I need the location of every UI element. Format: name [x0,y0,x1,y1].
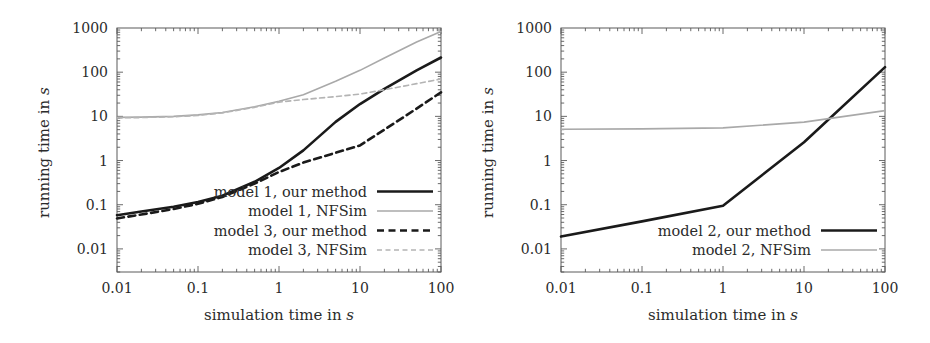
series-line [561,67,885,236]
y-tick-label: 1000 [72,20,108,36]
figure-root: 0.010.11101000.010.11101001000model 1, o… [0,0,930,343]
x-tick-label: 1 [719,280,728,296]
x-tick-label: 0.01 [545,280,576,296]
x-tick-label: 0.1 [631,280,653,296]
y-axis-title-right: running time in s [479,87,497,218]
x-axis-title-right: simulation time in s [561,306,885,324]
x-tick-label: 0.01 [101,280,132,296]
legend-label: model 3, our method [214,223,367,239]
y-axis-title-text: running time in s [479,87,497,218]
x-axis-unit: s [346,306,354,324]
chart-panel-right: 0.010.11101000.010.11101001000model 2, o… [465,0,930,343]
legend-label: model 3, NFSim [248,242,367,258]
y-axis-title-left: running time in s [35,87,53,218]
y-tick-label: 0.1 [86,197,108,213]
y-axis-unit: s [35,87,53,95]
x-tick-label: 0.1 [187,280,209,296]
y-axis-unit: s [479,87,497,95]
y-tick-label: 1 [543,153,552,169]
y-axis-title-text: running time in s [35,87,53,218]
x-axis-title-text: simulation time in s [648,306,798,324]
plot-area-left: 0.010.11101000.010.11101001000model 1, o… [0,0,465,343]
x-axis-title-left: simulation time in s [117,306,441,324]
x-tick-label: 10 [351,280,369,296]
y-tick-label: 1 [99,153,108,169]
legend-label: model 2, NFSim [692,242,811,258]
y-tick-label: 0.01 [521,241,552,257]
y-tick-label: 100 [81,64,108,80]
plot-area-right: 0.010.11101000.010.11101001000model 2, o… [465,0,930,343]
x-tick-label: 1 [275,280,284,296]
y-tick-label: 1000 [516,20,552,36]
y-tick-label: 100 [525,64,552,80]
x-axis-unit: s [790,306,798,324]
y-tick-label: 0.01 [77,241,108,257]
x-tick-label: 10 [795,280,813,296]
legend-label: model 2, our method [658,223,811,239]
legend-label: model 1, NFSim [248,203,367,219]
series-line [117,32,441,118]
y-tick-label: 10 [534,108,552,124]
y-tick-label: 10 [90,108,108,124]
x-tick-label: 100 [872,280,899,296]
x-axis-title-text: simulation time in s [204,306,354,324]
chart-panel-left: 0.010.11101000.010.11101001000model 1, o… [0,0,465,343]
y-tick-label: 0.1 [530,197,552,213]
x-tick-label: 100 [428,280,455,296]
legend-label: model 1, our method [214,184,367,200]
